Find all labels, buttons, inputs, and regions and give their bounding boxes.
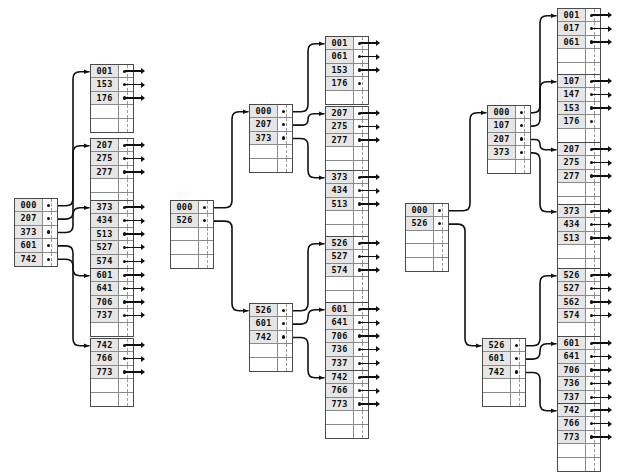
- record-pointer[interactable]: [594, 364, 600, 376]
- child-pointer[interactable]: [286, 118, 292, 130]
- leaf-node[interactable]: 742766773: [90, 338, 134, 407]
- record-pointer[interactable]: [362, 184, 368, 196]
- record-pointer[interactable]: [127, 241, 133, 253]
- internal-node[interactable]: 000107207373: [487, 105, 531, 174]
- record-pointer[interactable]: [594, 205, 600, 217]
- leaf-node[interactable]: 207275277: [557, 142, 601, 211]
- record-pointer[interactable]: [127, 339, 133, 351]
- leaf-node[interactable]: 207275277: [90, 138, 134, 207]
- record-pointer[interactable]: [127, 92, 133, 104]
- child-pointer[interactable]: [524, 106, 530, 118]
- record-pointer[interactable]: [594, 296, 600, 308]
- record-pointer[interactable]: [127, 166, 133, 178]
- child-pointer[interactable]: [442, 204, 448, 216]
- record-pointer[interactable]: [127, 282, 133, 294]
- child-pointer[interactable]: [519, 352, 525, 364]
- record-pointer[interactable]: [127, 201, 133, 213]
- leaf-node[interactable]: 526527574: [325, 236, 369, 305]
- record-pointer[interactable]: [127, 214, 133, 226]
- child-pointer[interactable]: [442, 217, 448, 229]
- child-pointer[interactable]: [286, 105, 292, 117]
- internal-node[interactable]: 000207373: [249, 104, 293, 173]
- record-pointer[interactable]: [594, 143, 600, 155]
- record-pointer[interactable]: [362, 120, 368, 132]
- record-pointer[interactable]: [594, 218, 600, 230]
- record-pointer[interactable]: [594, 232, 600, 244]
- record-pointer[interactable]: [594, 170, 600, 182]
- record-pointer[interactable]: [127, 255, 133, 268]
- record-pointer[interactable]: [127, 309, 133, 321]
- record-pointer[interactable]: [362, 198, 368, 210]
- record-pointer[interactable]: [362, 343, 368, 355]
- child-pointer[interactable]: [519, 339, 525, 351]
- record-pointer[interactable]: [594, 431, 600, 443]
- record-pointer[interactable]: [362, 316, 368, 328]
- child-pointer[interactable]: [51, 226, 57, 238]
- record-pointer[interactable]: [594, 391, 600, 404]
- record-pointer[interactable]: [127, 269, 133, 281]
- child-pointer[interactable]: [524, 133, 530, 145]
- record-pointer[interactable]: [362, 64, 368, 76]
- record-pointer[interactable]: [594, 337, 600, 349]
- leaf-node[interactable]: 373434513527574: [90, 200, 134, 269]
- internal-node[interactable]: 000526: [405, 203, 449, 272]
- child-pointer[interactable]: [207, 214, 213, 226]
- record-pointer[interactable]: [127, 228, 133, 240]
- record-pointer[interactable]: [594, 404, 600, 416]
- leaf-node[interactable]: 373434513: [557, 204, 601, 273]
- leaf-node[interactable]: 001017061: [557, 8, 601, 77]
- record-pointer[interactable]: [127, 65, 133, 77]
- record-pointer[interactable]: [362, 371, 368, 383]
- record-pointer[interactable]: [127, 366, 133, 378]
- leaf-node[interactable]: 601641706736737: [325, 302, 369, 371]
- child-pointer[interactable]: [51, 212, 57, 224]
- record-pointer[interactable]: [594, 22, 600, 34]
- record-pointer[interactable]: [362, 107, 368, 119]
- record-pointer[interactable]: [594, 115, 600, 127]
- leaf-node[interactable]: 107147153176: [557, 74, 601, 143]
- record-pointer[interactable]: [594, 309, 600, 321]
- leaf-node[interactable]: 001061153176: [325, 36, 369, 105]
- leaf-node[interactable]: 526527562574: [557, 268, 601, 337]
- internal-node[interactable]: 526601742: [482, 338, 526, 407]
- record-pointer[interactable]: [362, 237, 368, 249]
- record-pointer[interactable]: [362, 398, 368, 410]
- record-pointer[interactable]: [362, 37, 368, 49]
- child-pointer[interactable]: [524, 119, 530, 131]
- child-pointer[interactable]: [51, 199, 57, 211]
- record-pointer[interactable]: [594, 269, 600, 281]
- record-pointer[interactable]: [362, 357, 368, 370]
- record-pointer[interactable]: [127, 78, 133, 90]
- child-pointer[interactable]: [286, 304, 292, 316]
- record-pointer[interactable]: [362, 264, 368, 276]
- record-pointer[interactable]: [362, 171, 368, 183]
- internal-node[interactable]: 000526: [170, 200, 214, 269]
- leaf-node[interactable]: 742766773: [557, 403, 601, 472]
- child-pointer[interactable]: [207, 201, 213, 213]
- leaf-node[interactable]: 742766773: [325, 370, 369, 439]
- child-pointer[interactable]: [519, 366, 525, 378]
- child-pointer[interactable]: [51, 239, 57, 251]
- record-pointer[interactable]: [594, 102, 600, 114]
- record-pointer[interactable]: [594, 377, 600, 389]
- record-pointer[interactable]: [594, 282, 600, 294]
- record-pointer[interactable]: [362, 303, 368, 315]
- leaf-node[interactable]: 001153176: [90, 64, 134, 133]
- child-pointer[interactable]: [286, 132, 292, 144]
- leaf-node[interactable]: 207275277: [325, 106, 369, 175]
- leaf-node[interactable]: 601641706737: [90, 268, 134, 337]
- child-pointer[interactable]: [286, 317, 292, 329]
- record-pointer[interactable]: [127, 296, 133, 308]
- internal-node[interactable]: 000207373601742: [14, 198, 58, 267]
- record-pointer[interactable]: [594, 9, 600, 21]
- leaf-node[interactable]: 373434513: [325, 170, 369, 239]
- child-pointer[interactable]: [524, 146, 530, 158]
- record-pointer[interactable]: [362, 384, 368, 396]
- record-pointer[interactable]: [594, 36, 600, 48]
- child-pointer[interactable]: [51, 253, 57, 266]
- leaf-node[interactable]: 601641706736737: [557, 336, 601, 405]
- record-pointer[interactable]: [594, 75, 600, 87]
- internal-node[interactable]: 526601742: [249, 303, 293, 372]
- record-pointer[interactable]: [362, 134, 368, 146]
- child-pointer[interactable]: [286, 331, 292, 343]
